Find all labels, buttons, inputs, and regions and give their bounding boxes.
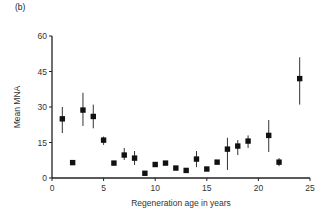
- data-point: [153, 162, 158, 167]
- square-marker: [163, 160, 168, 165]
- data-point: [101, 137, 106, 145]
- square-marker: [80, 107, 85, 112]
- x-tick-label: 0: [50, 183, 55, 193]
- square-marker: [235, 143, 240, 148]
- y-tick-label: 45: [38, 67, 48, 77]
- data-point: [225, 138, 230, 170]
- data-point: [163, 160, 168, 165]
- data-point: [214, 159, 219, 164]
- scatter-chart: 015304560 0510152025 Mean MNA Regenerati…: [0, 0, 329, 217]
- y-axis-title: Mean MNA: [12, 85, 22, 128]
- x-tick-label: 25: [305, 183, 315, 193]
- data-points: [60, 57, 303, 176]
- data-point: [266, 120, 271, 152]
- square-marker: [173, 165, 178, 170]
- y-axis: 015304560: [38, 31, 52, 183]
- square-marker: [204, 166, 209, 171]
- square-marker: [132, 155, 137, 160]
- square-marker: [214, 159, 219, 164]
- x-axis: 0510152025: [50, 178, 315, 193]
- data-point: [142, 171, 147, 176]
- square-marker: [60, 116, 65, 121]
- square-marker: [153, 162, 158, 167]
- square-marker: [142, 171, 147, 176]
- data-point: [173, 165, 178, 170]
- data-point: [80, 93, 85, 126]
- data-point: [60, 107, 65, 133]
- square-marker: [91, 114, 96, 119]
- data-point: [111, 160, 116, 165]
- square-marker: [70, 160, 75, 165]
- square-marker: [122, 152, 127, 157]
- data-point: [245, 135, 250, 148]
- y-tick-label: 0: [42, 173, 47, 183]
- square-marker: [111, 160, 116, 165]
- square-marker: [194, 156, 199, 161]
- y-tick-label: 60: [38, 31, 48, 41]
- data-point: [204, 166, 209, 171]
- square-marker: [245, 138, 250, 143]
- x-tick-label: 20: [254, 183, 264, 193]
- square-marker: [101, 137, 106, 142]
- square-marker: [276, 159, 281, 164]
- data-point: [194, 151, 199, 167]
- x-tick-label: 15: [202, 183, 212, 193]
- x-axis-title: Regeneration age in years: [131, 198, 231, 208]
- data-point: [276, 158, 281, 166]
- x-tick-label: 5: [101, 183, 106, 193]
- data-point: [235, 140, 240, 155]
- data-point: [183, 168, 188, 173]
- square-marker: [225, 146, 230, 151]
- data-point: [70, 160, 75, 165]
- square-marker: [183, 168, 188, 173]
- data-point: [132, 151, 137, 165]
- data-point: [122, 148, 127, 160]
- y-tick-label: 15: [38, 138, 48, 148]
- y-tick-label: 30: [38, 102, 48, 112]
- square-marker: [297, 76, 302, 81]
- data-point: [91, 105, 96, 129]
- square-marker: [266, 133, 271, 138]
- data-point: [297, 57, 302, 104]
- x-tick-label: 10: [150, 183, 160, 193]
